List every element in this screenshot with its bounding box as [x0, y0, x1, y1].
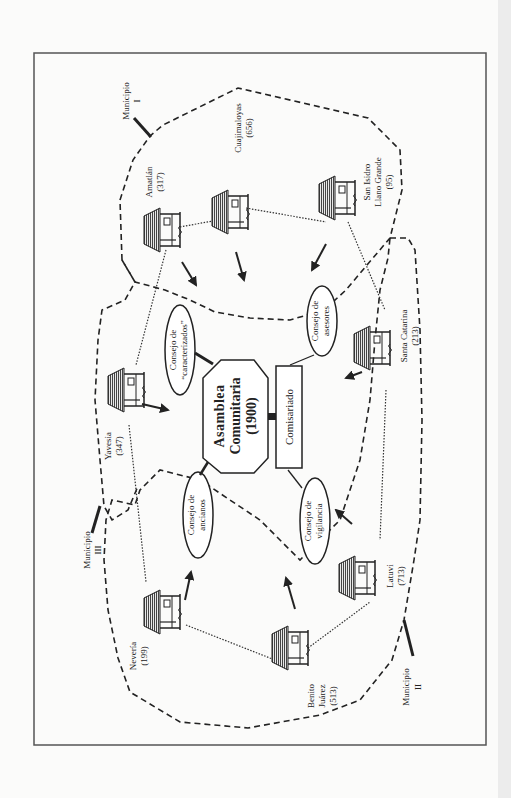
svg-text:(347): (347) [114, 436, 124, 456]
asamblea-comunitaria: Asamblea Comunitaria (1900) [203, 360, 268, 473]
label-san-isidro: San Isidro Llano Grande (95) [362, 157, 394, 207]
svg-text:San Isidro: San Isidro [362, 163, 372, 200]
svg-text:Cuajimaloyas: Cuajimaloyas [233, 103, 243, 153]
svg-text:Nevería: Nevería [128, 642, 138, 670]
label-cuajimaloyas: Cuajimaloyas (656) [233, 103, 254, 153]
svg-text:(213): (213) [410, 326, 420, 346]
svg-text:(199): (199) [139, 646, 149, 666]
council-vigilancia: Consejo de vigilancia [300, 478, 330, 564]
svg-text:(1900): (1900) [244, 397, 260, 435]
boundary-municipio-2 [104, 238, 422, 728]
house-icon-cuajimaloyas [212, 190, 250, 234]
svg-text:Juárez: Juárez [317, 685, 327, 708]
council-ancianos: Consejo de ancianos [183, 472, 213, 558]
house-icon-latuvi [339, 556, 377, 600]
house-icon-san-isidro [319, 176, 357, 220]
svg-text:Municipio: Municipio [401, 668, 411, 706]
svg-text:II: II [413, 684, 423, 690]
svg-text:Comunitaria: Comunitaria [228, 378, 243, 455]
svg-text:(713): (713) [396, 566, 406, 586]
svg-text:Consejo de: Consejo de [186, 495, 196, 535]
municipio-2: Municipio II [401, 620, 423, 706]
house-icon-santa-catarina [354, 326, 392, 370]
label-santa-catarina: Santa Catarina (213) [399, 310, 420, 363]
label-benito-juarez: Benito Juárez (513) [306, 684, 338, 708]
label-latuvi: Latuvi (713) [385, 564, 406, 588]
svg-text:Asamblea: Asamblea [212, 384, 227, 447]
house-icon-yavesia [108, 368, 146, 412]
house-icon-benito-juarez [272, 626, 310, 670]
assembly-commissariat-connector [268, 413, 276, 420]
comisariado: Comisariado [276, 366, 302, 468]
svg-text:Llano Grande: Llano Grande [373, 157, 383, 207]
diagram-canvas: Consejo de “caracterizados” Consejo de a… [0, 0, 511, 798]
council-asesores: Consejo de asesores [307, 286, 337, 356]
svg-text:(95): (95) [384, 175, 394, 190]
svg-text:Yavesia: Yavesia [103, 432, 113, 460]
svg-text:I: I [132, 100, 142, 103]
municipio-1: Municipio I [121, 82, 151, 137]
svg-text:“caracterizados”: “caracterizados” [179, 320, 189, 379]
svg-text:vigilancia: vigilancia [314, 503, 324, 539]
svg-text:(317): (317) [155, 172, 165, 192]
svg-text:(513): (513) [328, 686, 338, 706]
svg-text:Consejo de: Consejo de [168, 330, 178, 370]
council-caracterizados: Consejo de “caracterizados” [165, 305, 195, 395]
svg-text:Amatlán: Amatlán [144, 166, 154, 197]
svg-text:asesores: asesores [321, 306, 331, 336]
house-icon-amatlan [144, 208, 182, 252]
svg-text:Consejo de: Consejo de [310, 301, 320, 341]
svg-text:(656): (656) [244, 118, 254, 138]
svg-text:Consejo de: Consejo de [303, 501, 313, 541]
label-amatlan: Amatlán (317) [144, 166, 165, 197]
label-neveria: Nevería (199) [128, 642, 149, 670]
svg-text:Comisariado: Comisariado [283, 388, 295, 445]
svg-text:Benito: Benito [306, 684, 316, 708]
svg-text:III: III [93, 546, 103, 555]
svg-text:Municipio: Municipio [82, 531, 92, 569]
svg-text:Santa Catarina: Santa Catarina [399, 310, 409, 363]
svg-text:Municipio: Municipio [121, 82, 131, 120]
house-icon-neveria [144, 590, 182, 634]
svg-text:Latuvi: Latuvi [385, 564, 395, 588]
boundary-municipio-1 [120, 88, 402, 320]
label-yavesia: Yavesia (347) [103, 432, 124, 460]
municipio-3: Municipio III [82, 506, 103, 569]
svg-text:ancianos: ancianos [197, 499, 207, 531]
